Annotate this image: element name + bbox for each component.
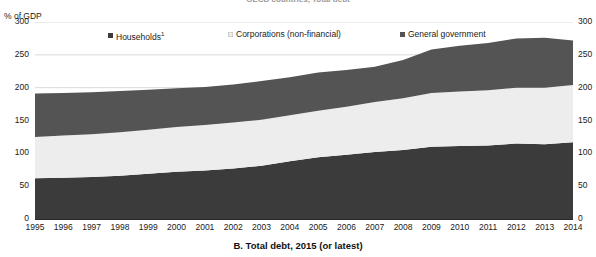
y-tick-label: 300: [0, 17, 29, 26]
legend-item[interactable]: General government: [400, 29, 486, 39]
legend-swatch-icon: [108, 33, 113, 38]
chart-legend: Households1Corporations (non-financial)G…: [35, 29, 573, 43]
y-tick-label: 100: [0, 148, 29, 157]
y-tick-label: 150: [0, 116, 29, 125]
y-tick-label: 50: [0, 181, 29, 190]
y-tick-label: 200: [578, 83, 596, 92]
x-axis-line: [35, 219, 573, 220]
legend-swatch-icon: [400, 32, 405, 37]
legend-item[interactable]: Households1: [108, 29, 164, 42]
legend-item[interactable]: Corporations (non-financial): [228, 29, 341, 39]
legend-footnote-marker: 1: [161, 31, 164, 37]
x-tick-label: 2014: [556, 222, 590, 232]
y-tick-label: 150: [578, 116, 596, 125]
y-tick-label: 100: [578, 148, 596, 157]
plot-area: [35, 22, 573, 219]
legend-label: Households1: [116, 29, 164, 42]
y-tick-label: 300: [578, 17, 596, 26]
legend-label: General government: [408, 29, 486, 39]
y-tick-label: 50: [578, 181, 596, 190]
clipped-chart-title: OECD countries, Total debt: [0, 0, 596, 4]
y-tick-label: 250: [0, 50, 29, 59]
y-tick-label: 250: [578, 50, 596, 59]
chart-figure: OECD countries, Total debt % of GDP 0501…: [0, 0, 596, 257]
stacked-area-plot: [35, 22, 573, 219]
legend-label: Corporations (non-financial): [236, 29, 341, 39]
legend-swatch-icon: [228, 32, 233, 37]
y-tick-label: 200: [0, 83, 29, 92]
chart-caption: B. Total debt, 2015 (or latest): [0, 240, 596, 251]
